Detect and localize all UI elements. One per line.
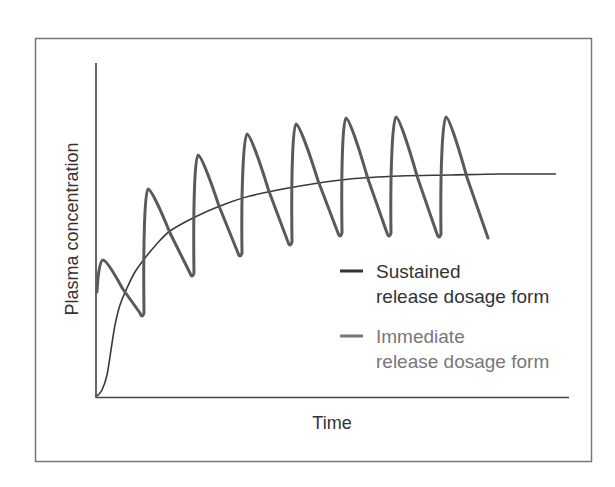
x-axis-label: Time: [312, 413, 351, 433]
legend: Sustained release dosage form Immediate …: [340, 261, 549, 372]
legend-label-immediate-line2: release dosage form: [376, 351, 549, 372]
legend-label-immediate-line1: Immediate: [376, 326, 465, 347]
legend-label-sustained-line1: Sustained: [376, 261, 461, 282]
y-axis-label: Plasma concentration: [62, 142, 82, 315]
chart-canvas: Time Plasma concentration Sustained rele…: [0, 0, 615, 487]
legend-label-sustained-line2: release dosage form: [376, 286, 549, 307]
